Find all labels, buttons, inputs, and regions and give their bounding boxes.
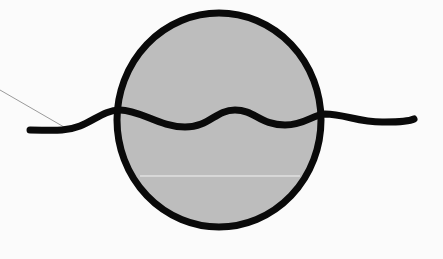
- diagram-canvas: [0, 0, 443, 259]
- leader-line: [0, 90, 64, 127]
